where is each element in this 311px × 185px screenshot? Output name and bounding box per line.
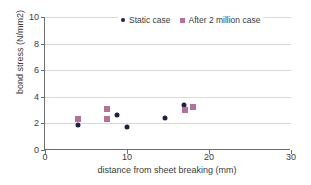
legend-label: Static case	[129, 15, 171, 25]
y-tick-mark	[41, 17, 45, 18]
y-tick-label: 4	[34, 92, 39, 101]
y-tick-label: 6	[34, 66, 39, 75]
square-marker-icon	[180, 18, 185, 23]
legend-entry: After 2 million case	[180, 15, 261, 25]
y-tick-label: 10	[29, 13, 39, 22]
x-tick-label: 0	[42, 153, 47, 162]
gridline	[45, 123, 291, 124]
x-tick-label: 20	[204, 153, 214, 162]
data-point	[115, 113, 120, 118]
legend: Static caseAfter 2 million case	[118, 13, 263, 27]
legend-label: After 2 million case	[189, 15, 261, 25]
data-point	[104, 116, 110, 122]
y-axis-title: bond stress (N/mm2)	[15, 0, 25, 122]
legend-entry: Static case	[121, 15, 171, 25]
y-tick-label: 2	[34, 119, 39, 128]
data-point	[104, 106, 110, 112]
x-tick-label: 30	[286, 153, 296, 162]
data-point	[190, 104, 196, 110]
scatter-chart-figure: 0246810 0102030 bond stress (N/mm2) dist…	[0, 0, 311, 185]
data-point	[75, 116, 81, 122]
y-tick-label: 0	[34, 146, 39, 155]
x-axis-title: distance from sheet breaking (mm)	[44, 165, 290, 175]
y-tick-mark	[41, 123, 45, 124]
plot-area: 0246810 0102030	[44, 17, 290, 150]
circle-marker-icon	[121, 18, 125, 22]
y-tick-label: 8	[34, 39, 39, 48]
data-point	[182, 107, 188, 113]
y-tick-mark	[41, 97, 45, 98]
gridline	[45, 70, 291, 71]
data-point	[162, 116, 167, 121]
data-point	[75, 123, 80, 128]
gridline	[45, 44, 291, 45]
gridline	[45, 97, 291, 98]
y-tick-mark	[41, 70, 45, 71]
x-tick-label: 10	[122, 153, 132, 162]
y-tick-mark	[41, 44, 45, 45]
data-point	[125, 125, 130, 130]
